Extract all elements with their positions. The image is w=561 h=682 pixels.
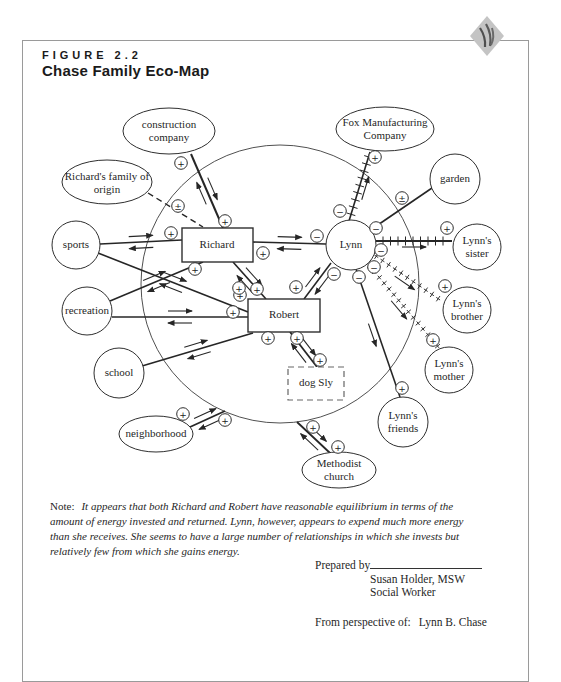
arrow-school-robert-forth — [184, 340, 207, 347]
family-boundary-circle — [141, 145, 419, 423]
line-construction-richard — [191, 154, 223, 228]
prepared-by-line: Prepared by — [315, 557, 487, 571]
footer-block: Prepared by Susan Holder, MSW Social Wor… — [315, 557, 487, 628]
arrow-sports-richard-back — [129, 247, 153, 248]
line-sports-richard — [100, 240, 182, 244]
sign-plus-glyph: + — [316, 356, 324, 366]
arrow-lynn-fox — [362, 177, 369, 200]
line-lynn-fox — [349, 152, 370, 221]
prepared-by-label: Prepared by — [315, 559, 370, 571]
sign-minus-glyph: − — [370, 263, 378, 273]
node-lynns-brother — [443, 287, 491, 333]
sign-minus-glyph: − — [313, 232, 321, 242]
line-lynn-robert — [304, 263, 331, 299]
sign-plus-glyph: + — [398, 384, 406, 394]
sign-minus-glyph: − — [377, 246, 385, 256]
node-robert — [248, 299, 320, 332]
sign-plus-glyph: + — [221, 416, 229, 426]
sign-plus-glyph: + — [167, 229, 175, 239]
sign-plus-glyph: + — [177, 159, 185, 169]
node-methodist-church — [302, 452, 376, 488]
arrow-richard-lynn-forth — [278, 237, 302, 238]
prepared-by-title: Social Worker — [370, 586, 487, 598]
node-recreation — [62, 287, 112, 335]
node-richard — [182, 228, 253, 262]
arrow-richard-lynn-back — [277, 249, 301, 250]
node-construction-company — [123, 108, 215, 154]
sign-plus-glyph: + — [429, 336, 437, 346]
arrow-lynn-brother — [395, 276, 415, 290]
perspective-line: From perspective of:Lynn B. Chase — [315, 616, 487, 628]
arrow-lynn-friends — [368, 324, 376, 347]
prepared-by-name: Susan Holder, MSW — [370, 573, 487, 585]
node-fox-manufacturing — [336, 107, 434, 151]
sign-minus-glyph: − — [372, 224, 380, 234]
arrow-robert-dogsly-back — [291, 344, 306, 363]
perspective-label: From perspective of: — [315, 616, 411, 628]
sign-plus-glyph: + — [229, 308, 237, 318]
prepared-by-signature-line — [370, 557, 482, 569]
node-sports — [52, 221, 100, 269]
line-lynn-friends — [356, 269, 400, 397]
sign-plus-minus-glyph: ± — [174, 202, 182, 212]
arrow-lynn-robert-forth — [315, 275, 329, 294]
sign-plus-glyph: + — [443, 224, 451, 234]
node-lynns-sister — [453, 224, 501, 270]
note-body: It appears that both Richard and Robert … — [50, 500, 464, 557]
sign-plus-glyph: + — [221, 217, 229, 227]
sign-plus-glyph: + — [264, 334, 272, 344]
node-garden — [430, 154, 480, 204]
sign-plus-glyph: + — [309, 423, 317, 433]
sign-plus-glyph: + — [371, 153, 379, 163]
arrow-school-robert-back — [188, 352, 211, 359]
perspective-name: Lynn B. Chase — [419, 616, 487, 628]
sign-minus-glyph: − — [330, 270, 338, 280]
note-text: Note:It appears that both Richard and Ro… — [50, 499, 482, 559]
sign-plus-glyph: + — [293, 334, 301, 344]
node-richards-family-of-origin — [62, 160, 152, 204]
note-prefix: Note: — [50, 500, 74, 512]
node-neighborhood — [119, 416, 193, 452]
node-school — [94, 348, 144, 398]
node-lynns-mother — [425, 347, 473, 393]
line-school-robert — [142, 333, 253, 366]
sign-plus-glyph: + — [334, 443, 342, 453]
sign-plus-glyph: + — [191, 265, 199, 275]
sign-plus-glyph: + — [441, 282, 449, 292]
sign-plus-glyph: + — [292, 283, 300, 293]
eco-map-diagram: ++±++++++++++++++++±++++−−−−−−− — [0, 0, 561, 505]
arrow-lynn-mother — [391, 301, 407, 319]
sign-plus-minus-glyph: ± — [398, 194, 406, 204]
node-lynns-friends — [378, 397, 428, 447]
arrow-family-methodist-back — [301, 434, 318, 450]
arrow-lynn-robert-back — [306, 268, 320, 287]
sign-plus-glyph: + — [235, 284, 243, 294]
sign-minus-glyph: − — [336, 207, 344, 217]
node-dog-sly — [288, 367, 344, 400]
sign-minus-glyph: − — [355, 273, 363, 283]
node-lynn — [326, 220, 376, 270]
sign-plus-glyph: + — [179, 410, 187, 420]
sign-plus-glyph: + — [259, 249, 267, 259]
sign-plus-glyph: + — [253, 285, 261, 295]
